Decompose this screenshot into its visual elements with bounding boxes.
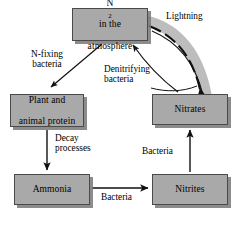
node-nitrates-label: Nitrates [173,104,208,115]
node-atmosphere-label: N2 in theatmosphere [84,0,137,51]
label-decay-processes: Decay processes [55,133,101,153]
node-nitrates[interactable]: Nitrates [152,94,228,125]
node-plant-label: Plant andanimal protein [15,95,80,127]
label-denitrifying-bacteria: Denitrifying bacteria [104,64,166,84]
node-nitrites-label: Nitrites [173,184,206,195]
node-ammonia-label: Ammonia [31,184,74,195]
node-nitrites[interactable]: Nitrites [152,174,228,205]
node-ammonia[interactable]: Ammonia [14,174,90,205]
label-bacteria-nitrite-to-nitrate: Bacteria [142,146,173,156]
subscript-two: 2 [108,12,112,19]
label-n-fixing-bacteria: N-fixing bacteria [19,49,75,69]
node-atmosphere[interactable]: N2 in theatmosphere [72,8,148,41]
label-bacteria-ammonia-to-nitrite: Bacteria [101,192,132,202]
label-lightning: Lightning [166,11,203,21]
node-plant-animal-protein[interactable]: Plant andanimal protein [10,94,84,127]
nitrogen-cycle-diagram: N2 in theatmosphere Plant andanimal prot… [0,0,241,227]
